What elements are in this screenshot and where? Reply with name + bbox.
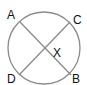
label-c: C: [73, 13, 82, 27]
chord-ab: [20, 22, 71, 75]
label-x-intersection: X: [53, 46, 61, 60]
chord-cd: [19, 22, 70, 75]
label-b: B: [72, 72, 80, 85]
label-d: D: [7, 72, 16, 85]
label-a: A: [7, 8, 15, 22]
circle-chords-diagram: A C D B X: [0, 0, 87, 85]
